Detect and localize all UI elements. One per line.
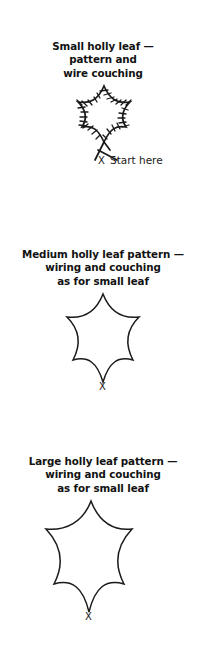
caption-large-holly-leaf: Large holly leaf pattern — wiring and co… — [0, 455, 206, 495]
caption-line: as for small leaf — [4, 482, 202, 495]
figure-medium-holly-leaf: X — [0, 288, 206, 398]
page-top-margin — [0, 0, 206, 4]
caption-line: wire couching — [4, 67, 202, 80]
section-large-holly-leaf: Large holly leaf pattern — wiring and co… — [0, 455, 206, 635]
start-here-label: Start here — [110, 155, 163, 166]
caption-medium-holly-leaf: Medium holly leaf pattern — wiring and c… — [0, 248, 206, 288]
caption-line: Small holly leaf — — [4, 40, 202, 53]
medium-leaf-outline — [67, 294, 139, 382]
caption-line: pattern and — [4, 53, 202, 66]
page-canvas: Small holly leaf — pattern and wire couc… — [0, 0, 206, 646]
figure-large-holly-leaf: X — [0, 495, 206, 635]
start-x-marker: X — [85, 612, 92, 622]
start-x-marker: X — [98, 156, 105, 166]
caption-line: wiring and couching — [4, 468, 202, 481]
section-small-holly-leaf: Small holly leaf — pattern and wire couc… — [0, 40, 206, 170]
section-medium-holly-leaf: Medium holly leaf pattern — wiring and c… — [0, 248, 206, 398]
figure-small-holly-leaf: X Start here — [0, 80, 206, 170]
caption-line: as for small leaf — [4, 275, 202, 288]
start-x-marker: X — [99, 382, 106, 392]
caption-line: Large holly leaf pattern — — [4, 455, 202, 468]
small-leaf-tail-cross — [104, 142, 110, 150]
caption-line: Medium holly leaf pattern — — [4, 248, 202, 261]
large-leaf-outline — [46, 501, 132, 612]
large-holly-leaf-svg — [0, 495, 206, 635]
caption-line: wiring and couching — [4, 261, 202, 274]
caption-small-holly-leaf: Small holly leaf — pattern and wire couc… — [0, 40, 206, 80]
